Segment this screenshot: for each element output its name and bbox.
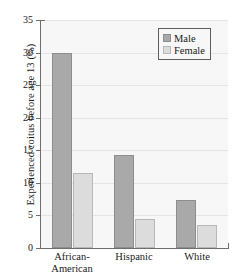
category-label-line: American xyxy=(41,263,103,274)
x-axis-category-label: Hispanic xyxy=(103,251,165,263)
y-axis-title: Experienced coitus before age 13 (%) xyxy=(25,7,36,243)
category-label-line: African- xyxy=(41,251,103,263)
bar-female xyxy=(73,173,93,248)
x-axis-line xyxy=(40,248,229,249)
bar-female xyxy=(197,225,217,248)
y-axis-tick xyxy=(36,248,41,249)
gridline xyxy=(41,20,228,21)
y-axis-tick xyxy=(36,53,41,54)
y-axis-tick-label: 15 xyxy=(3,145,33,155)
bar-male xyxy=(52,53,72,248)
category-label-line: Hispanic xyxy=(103,251,165,263)
y-axis-tick-label: 35 xyxy=(3,15,33,25)
legend-label-female: Female xyxy=(174,45,205,56)
bar-female xyxy=(135,219,155,248)
category-label-line: White xyxy=(166,251,228,263)
x-axis-category-label: African-American xyxy=(41,251,103,274)
y-axis-tick-label: 10 xyxy=(3,178,33,188)
y-axis-tick xyxy=(36,20,41,21)
y-axis-tick-label: 25 xyxy=(3,80,33,90)
y-axis-tick-label: 20 xyxy=(3,113,33,123)
y-axis-tick xyxy=(36,118,41,119)
legend-item-male: Male xyxy=(163,32,205,44)
legend: Male Female xyxy=(158,28,211,60)
y-axis-tick xyxy=(36,150,41,151)
y-axis-tick-label: 0 xyxy=(3,243,33,253)
male-swatch-icon xyxy=(163,34,171,42)
y-axis-tick xyxy=(36,215,41,216)
legend-item-female: Female xyxy=(163,44,205,56)
x-axis-category-label: White xyxy=(166,251,228,263)
bar-male xyxy=(114,155,134,248)
y-axis-tick xyxy=(36,183,41,184)
legend-label-male: Male xyxy=(174,33,196,44)
bar-male xyxy=(176,200,196,248)
female-swatch-icon xyxy=(163,46,171,54)
x-axis-right-cap xyxy=(228,243,229,249)
y-axis-tick xyxy=(36,85,41,86)
y-axis-tick-label: 30 xyxy=(3,48,33,58)
y-axis-tick-label: 5 xyxy=(3,210,33,220)
